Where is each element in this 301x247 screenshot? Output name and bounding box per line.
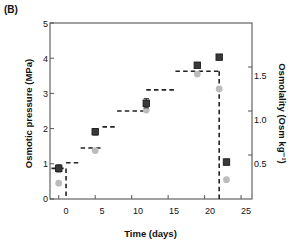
figure-panel-b: (B) Osmotic pressure (MPa) Osmolality (O…	[0, 0, 301, 247]
plot-area	[0, 0, 301, 247]
axis-ticks	[50, 23, 252, 199]
osmotic-pressure-series-markers	[56, 54, 230, 172]
axes-frame	[50, 23, 252, 199]
osmolality-series-markers	[55, 71, 230, 187]
step-profile-line	[51, 71, 219, 199]
